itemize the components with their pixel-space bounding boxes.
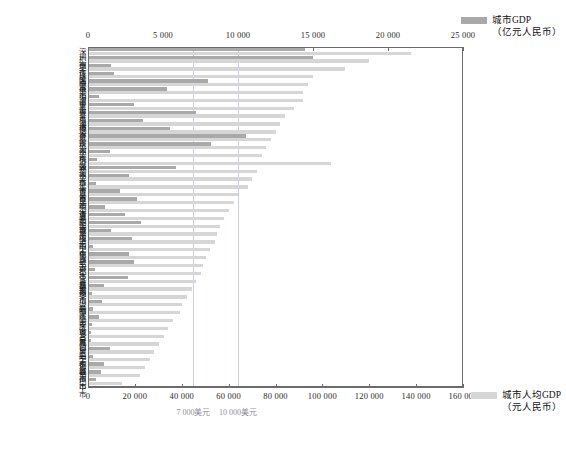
bar-chart: 05 00010 00015 00020 00025 000 020 00040… — [0, 0, 566, 455]
bar-row — [89, 189, 463, 197]
bar-row — [89, 276, 463, 284]
bar-row — [89, 87, 463, 95]
category-label: 武汉市 — [78, 133, 85, 141]
category-label: 盐城市 — [78, 220, 85, 228]
bar-city-percapita-gdp — [89, 193, 238, 196]
bar-row — [89, 182, 463, 190]
category-label: 巴中市 — [78, 377, 85, 385]
category-label: 佛山市 — [78, 86, 85, 94]
bar-city-percapita-gdp — [89, 59, 369, 62]
category-label: 南宁市 — [78, 251, 85, 259]
bar-city-percapita-gdp — [89, 264, 203, 267]
category-label: 海宁市 — [78, 94, 85, 102]
bar-city-percapita-gdp — [89, 280, 196, 283]
bar-row — [89, 355, 463, 363]
bar-city-percapita-gdp — [89, 256, 206, 259]
category-label: 宁都县 — [78, 354, 85, 362]
bar-row — [89, 150, 463, 158]
bar-row — [89, 205, 463, 213]
bar-row — [89, 229, 463, 237]
top-tick-label: 5 000 — [153, 30, 173, 40]
bar-city-percapita-gdp — [89, 240, 215, 243]
bottom-tick-label: 140 000 — [402, 391, 431, 401]
bar-city-percapita-gdp — [89, 209, 229, 212]
bar-city-percapita-gdp — [89, 232, 217, 235]
bar-city-percapita-gdp — [89, 67, 345, 70]
bottom-tick-label: 20 000 — [123, 391, 148, 401]
bottom-tick-label: 60 000 — [216, 391, 241, 401]
bar-city-percapita-gdp — [89, 327, 168, 330]
bottom-tick-label: 100 000 — [308, 391, 337, 401]
legend-swatch-gdp — [461, 17, 487, 24]
bar-city-percapita-gdp — [89, 319, 173, 322]
bar-row — [89, 284, 463, 292]
legend-gdp-unit: （亿元人民币） — [492, 26, 562, 38]
bar-row — [89, 315, 463, 323]
top-tick-label: 0 — [86, 30, 90, 40]
bar-city-percapita-gdp — [89, 287, 192, 290]
category-label: 都江堰市 — [78, 267, 85, 275]
category-label: 宜昌市 — [78, 275, 85, 283]
top-tick — [463, 47, 464, 51]
legend-city-percapita-gdp: 城市人均GDP （元人民币） — [471, 389, 562, 413]
plot-area — [88, 47, 463, 387]
bar-row — [89, 347, 463, 355]
bar-city-percapita-gdp — [89, 99, 303, 102]
bar-city-percapita-gdp — [89, 177, 252, 180]
category-label: 济源市 — [78, 157, 85, 165]
bar-city-percapita-gdp — [89, 295, 187, 298]
category-label: 襄阳市 — [78, 212, 85, 220]
category-label: 莆田市 — [78, 228, 85, 236]
category-label: 洛阳市 — [78, 236, 85, 244]
bar-row — [89, 323, 463, 331]
legend-label-percapita: 城市人均GDP （元人民币） — [502, 389, 562, 413]
category-label: 青岛市 — [78, 110, 85, 118]
bar-rows — [89, 48, 463, 386]
category-label: 宿州市 — [78, 369, 85, 377]
bar-city-percapita-gdp — [89, 114, 285, 117]
category-label: 深圳市 — [78, 47, 85, 55]
bar-row — [89, 197, 463, 205]
bar-row — [89, 103, 463, 111]
bottom-tick-label: 0 — [86, 391, 90, 401]
category-label: 绍兴市 — [78, 259, 85, 267]
bar-row — [89, 245, 463, 253]
category-label: 彭州市 — [78, 283, 85, 291]
category-label: 嘉兴市 — [78, 102, 85, 110]
bar-city-percapita-gdp — [89, 185, 248, 188]
bar-row — [89, 268, 463, 276]
bar-city-percapita-gdp — [89, 350, 154, 353]
reference-line-label: 10 000美元 — [219, 406, 257, 417]
bottom-tick-label: 40 000 — [169, 391, 194, 401]
category-label: 汾阳市 — [78, 299, 85, 307]
bar-city-percapita-gdp — [89, 52, 411, 55]
legend-percapita-name: 城市人均GDP — [502, 390, 561, 400]
category-label: 庆城县 — [78, 322, 85, 330]
bar-row — [89, 142, 463, 150]
category-label: 乐清市 — [78, 204, 85, 212]
legend-label-gdp: 城市GDP （亿元人民币） — [492, 14, 562, 38]
bar-row — [89, 111, 463, 119]
bottom-tick-label: 120 000 — [355, 391, 384, 401]
bar-city-percapita-gdp — [89, 107, 294, 110]
category-label: 余杭区 — [78, 149, 85, 157]
bar-city-percapita-gdp — [89, 201, 234, 204]
category-label: 运城市 — [78, 361, 85, 369]
category-label: 金华市 — [78, 173, 85, 181]
bar-row — [89, 134, 463, 142]
bar-row — [89, 213, 463, 221]
category-label: 珠海市 — [78, 71, 85, 79]
bar-city-percapita-gdp — [89, 130, 276, 133]
category-label: 南京市 — [78, 78, 85, 86]
bar-row — [89, 72, 463, 80]
bar-row — [89, 95, 463, 103]
bar-row — [89, 166, 463, 174]
bar-row — [89, 252, 463, 260]
bar-city-percapita-gdp — [89, 91, 303, 94]
top-tick-label: 20 000 — [376, 30, 401, 40]
category-label: 郑州市 — [78, 165, 85, 173]
bar-row — [89, 56, 463, 64]
bar-city-percapita-gdp — [89, 217, 224, 220]
bar-city-percapita-gdp — [89, 225, 220, 228]
category-label: 临安市 — [78, 314, 85, 322]
